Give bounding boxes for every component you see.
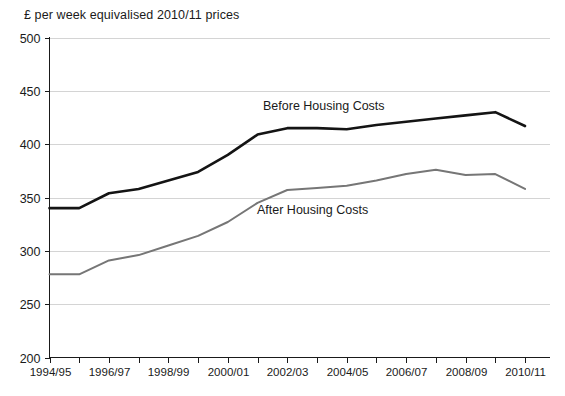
series-line-after-housing-costs xyxy=(50,170,526,275)
axis-ticks xyxy=(45,39,526,363)
x-tick-label: 2000/01 xyxy=(208,366,250,378)
y-tick-label: 350 xyxy=(20,192,41,206)
y-tick-label: 450 xyxy=(20,85,41,99)
x-tick-label: 1994/95 xyxy=(30,366,72,378)
x-axis-labels: 1994/951996/971998/992000/012002/032004/… xyxy=(30,366,546,378)
x-tick-label: 1998/99 xyxy=(148,366,190,378)
x-tick-label: 2008/09 xyxy=(446,366,488,378)
y-tick-label: 400 xyxy=(20,138,41,152)
x-tick-label: 2006/07 xyxy=(386,366,428,378)
y-tick-label: 500 xyxy=(20,32,41,46)
series-annotations: Before Housing CostsAfter Housing Costs xyxy=(257,99,385,217)
y-tick-label: 200 xyxy=(20,352,41,366)
series-label-before-housing-costs: Before Housing Costs xyxy=(263,99,385,113)
data-series xyxy=(50,112,526,274)
gridlines xyxy=(50,39,551,305)
x-tick-label: 2002/03 xyxy=(267,366,309,378)
series-label-after-housing-costs: After Housing Costs xyxy=(257,203,368,217)
x-tick-label: 2010/11 xyxy=(505,366,546,378)
y-axis-labels: 200250300350400450500 xyxy=(20,32,41,366)
chart-container: £ per week equivalised 2010/11 prices 20… xyxy=(0,0,565,396)
line-chart-plot: 200250300350400450500 1994/951996/971998… xyxy=(0,0,565,396)
y-tick-label: 300 xyxy=(20,245,41,259)
y-tick-label: 250 xyxy=(20,298,41,312)
x-tick-label: 1996/97 xyxy=(89,366,131,378)
x-tick-label: 2004/05 xyxy=(327,366,369,378)
series-line-before-housing-costs xyxy=(50,112,526,208)
